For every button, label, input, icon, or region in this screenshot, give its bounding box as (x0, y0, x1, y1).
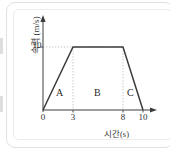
y-axis-label-wrap: 속력 (m/s) (14, 14, 28, 70)
x-tick-label-0: 0 (36, 112, 50, 122)
x-tick-label-3: 3 (66, 112, 80, 122)
y-axis-label: 속력 (m/s) (29, 7, 43, 63)
x-axis-label: 시간(s) (104, 127, 129, 139)
region-label-a: A (56, 87, 63, 98)
x-tick-label-10: 10 (136, 112, 150, 122)
region-label-c: C (127, 87, 134, 98)
figure-page: 속력 (m/s) 시간(s) 10 0 3 8 10 A B C (0, 0, 170, 148)
x-tick-label-8: 8 (116, 112, 130, 122)
speed-time-curve (43, 47, 143, 110)
region-label-b: B (94, 87, 101, 98)
x-axis-arrow-icon (150, 107, 157, 112)
y-tick-label-10: 10 (30, 40, 44, 50)
